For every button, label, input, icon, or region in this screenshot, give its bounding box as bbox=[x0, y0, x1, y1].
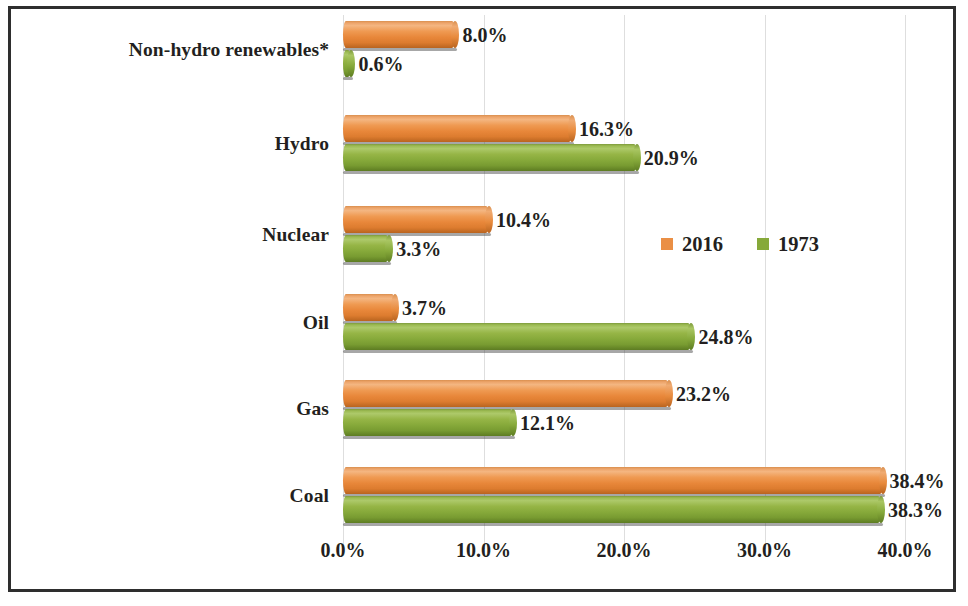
category-label-non-hydro-renewables: Non-hydro renewables* bbox=[11, 40, 329, 60]
value-label-2016-coal: 38.4% bbox=[890, 471, 945, 491]
bar-end-cap bbox=[633, 144, 641, 171]
value-label-2016-nuclear: 10.4% bbox=[496, 210, 551, 230]
bar-2016-coal bbox=[343, 467, 883, 494]
bar-end-cap bbox=[451, 21, 459, 48]
value-label-2016-oil: 3.7% bbox=[402, 298, 447, 318]
bar-shadow bbox=[343, 171, 639, 174]
bar-1973-gas bbox=[343, 409, 513, 436]
value-label-1973-oil: 24.8% bbox=[698, 327, 753, 347]
value-label-1973-coal: 38.3% bbox=[888, 500, 943, 520]
legend-item-1973[interactable]: 1973 bbox=[757, 234, 819, 255]
category-label-nuclear: Nuclear bbox=[11, 225, 329, 245]
bar-end-cap bbox=[879, 467, 887, 494]
gridline-400 bbox=[905, 15, 906, 549]
bar-end-cap bbox=[347, 50, 355, 77]
bar-end-cap bbox=[509, 409, 517, 436]
plot-area: Non-hydro renewables*HydroNuclearOilGasC… bbox=[11, 9, 953, 589]
bar-2016-gas bbox=[343, 380, 669, 407]
x-tick-label-400: 40.0% bbox=[878, 540, 933, 560]
bar-end-cap bbox=[391, 294, 399, 321]
bar-2016-hydro bbox=[343, 115, 572, 142]
x-tick-label-100: 10.0% bbox=[456, 540, 511, 560]
bar-end-cap bbox=[687, 323, 695, 350]
value-label-1973-gas: 12.1% bbox=[520, 413, 575, 433]
value-label-2016-gas: 23.2% bbox=[676, 384, 731, 404]
x-tick-label-200: 20.0% bbox=[597, 540, 652, 560]
bar-shadow bbox=[343, 523, 883, 526]
value-label-1973-non-hydro-renewables: 0.6% bbox=[358, 54, 403, 74]
value-label-2016-hydro: 16.3% bbox=[579, 119, 634, 139]
chart-legend: 20161973 bbox=[661, 234, 819, 255]
bar-shadow bbox=[343, 350, 693, 353]
value-label-2016-non-hydro-renewables: 8.0% bbox=[462, 25, 507, 45]
bar-shadow bbox=[343, 77, 353, 80]
legend-label-2016: 2016 bbox=[682, 234, 723, 255]
bar-end-cap bbox=[877, 496, 885, 523]
bar-end-cap bbox=[568, 115, 576, 142]
category-label-oil: Oil bbox=[11, 313, 329, 333]
bar-2016-nuclear bbox=[343, 206, 489, 233]
bar-1973-non-hydro-renewables bbox=[343, 50, 351, 77]
category-label-hydro: Hydro bbox=[11, 134, 329, 154]
bar-1973-oil bbox=[343, 323, 691, 350]
bar-shadow bbox=[343, 436, 515, 439]
bar-1973-nuclear bbox=[343, 235, 389, 262]
bar-2016-non-hydro-renewables bbox=[343, 21, 455, 48]
category-label-gas: Gas bbox=[11, 399, 329, 419]
bar-end-cap bbox=[385, 235, 393, 262]
chart-frame: Non-hydro renewables*HydroNuclearOilGasC… bbox=[8, 6, 956, 592]
legend-swatch-icon-1973 bbox=[757, 238, 769, 250]
bar-shadow bbox=[343, 262, 391, 265]
x-tick-label-00: 0.0% bbox=[321, 540, 366, 560]
legend-label-1973: 1973 bbox=[778, 234, 819, 255]
category-label-coal: Coal bbox=[11, 486, 329, 506]
x-tick-label-300: 30.0% bbox=[737, 540, 792, 560]
bar-end-cap bbox=[665, 380, 673, 407]
bar-end-cap bbox=[485, 206, 493, 233]
bar-1973-coal bbox=[343, 496, 881, 523]
legend-item-2016[interactable]: 2016 bbox=[661, 234, 723, 255]
bar-1973-hydro bbox=[343, 144, 637, 171]
bar-2016-oil bbox=[343, 294, 395, 321]
value-label-1973-nuclear: 3.3% bbox=[396, 239, 441, 259]
legend-swatch-icon-2016 bbox=[661, 238, 673, 250]
value-label-1973-hydro: 20.9% bbox=[644, 148, 699, 168]
bar-shadow bbox=[343, 48, 457, 51]
